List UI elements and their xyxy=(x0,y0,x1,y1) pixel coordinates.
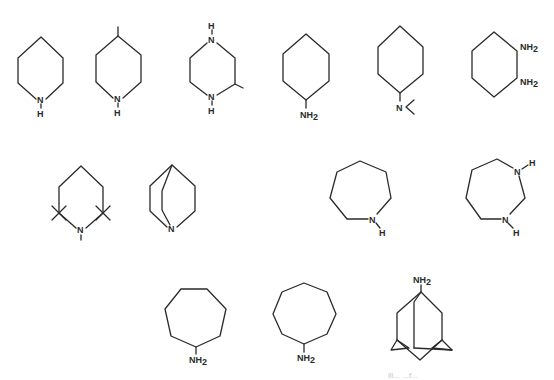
atom-nh2: NH2 xyxy=(189,355,207,367)
faint-footer-text: ill... ...f... xyxy=(388,371,418,380)
molecule-n-n-dimethylcyclohexylamine: N xyxy=(378,26,423,114)
atom-nh2-lower: NH2 xyxy=(520,77,538,89)
atom-nh2: NH2 xyxy=(297,353,315,365)
atom-h: H xyxy=(37,109,44,119)
molecule-4-methylpiperidine: N H xyxy=(96,27,141,118)
molecule-1-3-diazepane: N H N H xyxy=(466,158,536,238)
molecule-cyclohexylamine: NH2 xyxy=(283,34,329,122)
atom-nh2: NH2 xyxy=(413,275,431,287)
atom-n-top: N xyxy=(208,35,215,45)
atom-n: N xyxy=(396,103,403,113)
molecule-cycloheptylamine: NH2 xyxy=(165,289,226,367)
molecule-1-adamantylamine: NH2 xyxy=(391,275,452,360)
atom-n: N xyxy=(37,95,44,105)
atom-h: H xyxy=(379,228,386,238)
atom-h: H xyxy=(114,108,121,118)
atom-nh2: NH2 xyxy=(300,110,318,122)
structure-figure: N H N H H N N H NH2 N NH2 NH2 xyxy=(0,0,554,380)
atom-h-bottom: H xyxy=(208,106,215,116)
atom-n-top: N xyxy=(514,167,521,177)
molecule-pentamethylpiperidine: N xyxy=(52,166,110,240)
molecule-azepane: N H xyxy=(330,161,391,238)
atom-nh2-upper: NH2 xyxy=(520,42,538,54)
atom-n: N xyxy=(369,215,376,225)
molecule-2-methylpiperazine: H N N H xyxy=(190,21,243,116)
atom-n-bottom: N xyxy=(502,215,509,225)
atom-n: N xyxy=(114,94,121,104)
atom-h-bottom: H xyxy=(513,228,520,238)
atom-h-top: H xyxy=(529,158,536,168)
atom-n-bottom: N xyxy=(208,92,215,102)
atom-n: N xyxy=(77,225,84,235)
molecule-1-2-diaminocyclohexane: NH2 NH2 xyxy=(472,32,538,97)
molecule-cyclooctylamine: NH2 xyxy=(273,283,336,365)
molecule-piperidine: N H xyxy=(18,37,63,119)
atom-n: N xyxy=(168,224,175,234)
atom-h-top: H xyxy=(208,21,215,31)
molecule-quinuclidine: N xyxy=(150,165,195,234)
